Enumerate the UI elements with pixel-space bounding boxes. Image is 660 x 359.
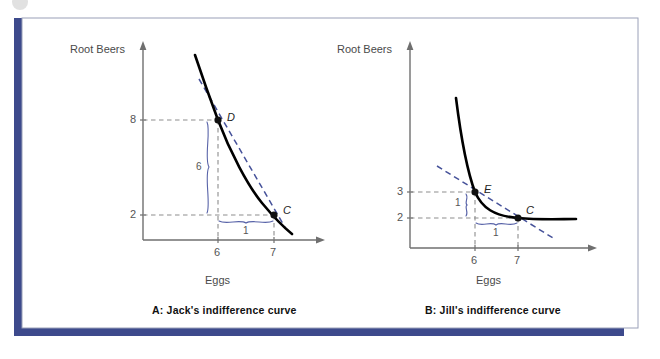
panel-b-ytick-label-3: 3	[397, 186, 403, 197]
panel-b-xtick-label-7: 7	[514, 255, 520, 266]
panel-a-caption: A: Jack's indifference curve	[152, 305, 297, 316]
panel-a-xtick-label-7: 7	[270, 247, 276, 258]
panel-a-x-axis-label: Eggs	[205, 275, 230, 286]
panel-a-point-c	[270, 211, 277, 218]
panel-b-point-e	[471, 188, 478, 195]
panel-a-y-axis-label: Root Beers	[70, 44, 125, 55]
panel-a-xtick-label-6: 6	[214, 247, 220, 258]
panel-b-brace-label-vertical: 1	[455, 198, 461, 208]
panel-b-xtick-label-6: 6	[471, 255, 477, 266]
panel-b-y-axis-label: Root Beers	[337, 44, 392, 55]
panel-b-ytick-label-2: 2	[397, 212, 403, 223]
frame-bottom-bar	[14, 328, 624, 336]
frame-left-bar	[14, 18, 22, 336]
panel-a-ytick-label-8: 8	[130, 114, 136, 125]
panel-b-point-c	[514, 214, 521, 221]
panel-a-brace-label-vertical: 6	[196, 162, 202, 172]
figure-frame	[14, 18, 638, 336]
panel-a-brace-label-horizontal: 1	[243, 226, 249, 236]
panel-a-ytick-label-2: 2	[130, 209, 136, 220]
panel-b-point-label-c: C	[526, 205, 534, 216]
panel-a-point-d	[214, 116, 221, 123]
panel-b-brace-label-horizontal: 1	[493, 228, 499, 238]
panel-b-point-label-e: E	[484, 184, 491, 195]
figure-root: Root Beers Eggs 8 2 6 7 D C 6 1 A: Jack'…	[0, 0, 660, 359]
panel-b-caption: B: Jill's indifference curve	[425, 305, 561, 316]
frame-card	[22, 18, 638, 328]
panel-a-point-label-c: C	[283, 205, 291, 216]
panel-a-point-label-d: D	[227, 112, 235, 123]
panel-b-x-axis-label: Eggs	[476, 275, 501, 286]
